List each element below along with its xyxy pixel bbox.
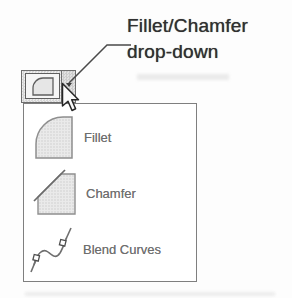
annotation-line2: drop-down: [127, 39, 292, 65]
fillet-icon: [30, 76, 56, 97]
figure-canvas: Fillet/Chamfer drop-down: [0, 0, 292, 298]
menu-item-blend-curves[interactable]: Blend Curves: [26, 221, 194, 277]
scan-artifact: [25, 292, 275, 296]
arrow-cursor-icon: [61, 82, 85, 116]
menu-item-label: Blend Curves: [83, 242, 161, 257]
fillet-icon: [32, 113, 77, 162]
fillet-chamfer-dropdown-menu: Fillet Chamfer Blend C: [23, 103, 197, 282]
menu-item-fillet[interactable]: Fillet: [26, 110, 194, 165]
menu-item-label: Chamfer: [86, 186, 136, 201]
menu-item-label: Fillet: [84, 130, 111, 145]
menu-item-chamfer[interactable]: Chamfer: [26, 165, 194, 222]
annotation-line1: Fillet/Chamfer: [127, 13, 292, 39]
scan-artifact: [137, 74, 229, 80]
fillet-tool-button[interactable]: [25, 73, 60, 99]
annotation-callout: Fillet/Chamfer drop-down: [127, 13, 292, 65]
blend-curves-icon: [28, 226, 76, 273]
chamfer-icon: [33, 169, 79, 218]
